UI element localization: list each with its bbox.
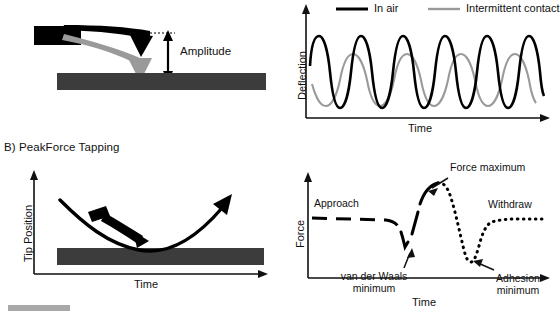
withdraw-label: Withdraw [488,198,532,210]
segment-steep-rise [412,212,418,234]
force-vs-time-chart: Approach Force maximum Withdraw van der … [282,150,556,315]
segment-van-der-waals-dip [401,232,408,247]
force-y-axis-arrow [304,172,312,182]
adhesion-label: Adhesion minimum [478,272,558,296]
tapping-mode-schematic: Amplitude [0,0,280,140]
van-der-waals-arrow-head [407,248,415,258]
oscillation-chart-svg [282,0,556,140]
peakforce-y-axis-label: Tip Position [22,205,34,262]
adhesion-label-line1: Adhesion [496,272,540,284]
peakforce-x-axis-label: Time [134,278,158,290]
force-maximum-label: Force maximum [450,161,525,173]
segment-withdraw [438,183,546,262]
amplitude-arrow-head-up [163,30,173,41]
oscillation-x-axis-arrow [540,114,550,122]
substrate-bar [57,73,266,90]
amplitude-label: Amplitude [180,45,231,57]
segment-approach [312,218,401,232]
van-der-waals-label: van der Waals minimum [326,270,422,294]
approach-label: Approach [314,197,359,209]
force-x-axis-label: Time [412,296,436,308]
deflection-vs-time-chart: In air Intermittent contact Deflection T… [282,0,556,140]
oscillation-x-axis-label: Time [408,122,432,134]
peakforce-cantilever-tip [133,231,149,248]
peakforce-x-axis-arrow [258,270,268,278]
adhesion-label-line2: minimum [497,284,540,296]
legend-label-in-air: In air [374,2,398,14]
oscillation-y-axis-arrow [302,4,310,14]
series-in-air [310,36,544,108]
tip-trajectory-arrow-head [213,194,232,215]
adhesion-arrow-head [473,259,483,267]
oscillation-y-axis-label: Deflection [296,51,308,100]
panel-b-heading: B) PeakForce Tapping [4,141,120,153]
bottom-edge-bar-fragment [8,305,70,311]
tapping-schematic-svg [0,0,280,140]
force-y-axis-label: Force [294,220,306,248]
peakforce-tapping-schematic: Tip Position Time [0,158,280,298]
legend-label-intermittent-contact: Intermittent contact [466,2,560,14]
deflected-cantilever-beam [62,34,140,66]
peakforce-y-axis-arrow [30,170,38,180]
van-der-waals-label-line2: minimum [353,282,396,294]
van-der-waals-label-line1: van der Waals [341,270,408,282]
peakforce-schematic-svg [0,158,280,298]
cantilever-tip [129,33,153,57]
